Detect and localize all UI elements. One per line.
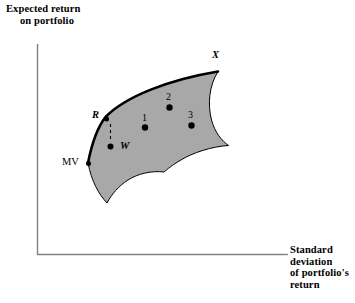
label-point-3: 3 xyxy=(188,110,193,121)
marker-dot-1 xyxy=(142,124,148,130)
marker-dot-3 xyxy=(188,122,194,128)
marker-dot-W xyxy=(108,144,114,150)
y-axis-title-line2: on portfolio xyxy=(6,15,81,27)
x-axis-title-line1: Standard xyxy=(290,244,354,256)
label-point-r: R xyxy=(92,110,99,121)
x-axis-title-line4: return xyxy=(290,279,354,291)
marker-dot-MV xyxy=(86,161,91,166)
y-axis-title-line1: Expected return xyxy=(6,3,81,14)
marker-dot-2 xyxy=(166,104,172,110)
y-axis-title: Expected returnon portfolio xyxy=(6,3,81,26)
x-axis-title: Standarddeviationof portfolio'sreturn xyxy=(290,244,354,290)
efficient-frontier-figure: Expected returnon portfolio Standarddevi… xyxy=(0,0,355,303)
label-point-x: X xyxy=(212,50,219,61)
marker-dot-R xyxy=(104,117,109,122)
x-axis-title-line2: deviation xyxy=(290,256,354,268)
label-point-mv: MV xyxy=(62,157,79,168)
x-axis-title-line3: of portfolio's xyxy=(290,267,354,279)
label-point-w: W xyxy=(120,141,129,152)
label-point-1: 1 xyxy=(142,113,147,124)
label-point-2: 2 xyxy=(166,92,171,103)
feasible-set-region xyxy=(88,72,229,204)
